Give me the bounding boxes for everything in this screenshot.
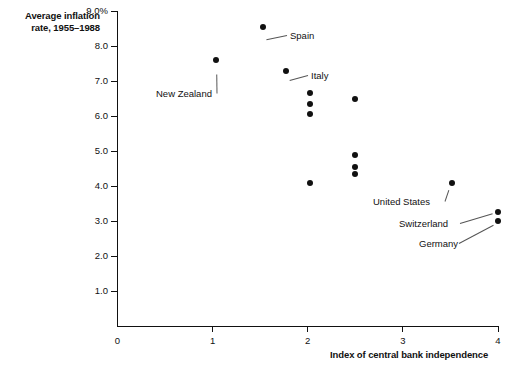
x-axis-title: Index of central bank independence — [330, 349, 488, 360]
point-label: Switzerland — [399, 219, 448, 229]
point-label: United States — [373, 197, 430, 207]
point-label: New Zealand — [156, 89, 212, 99]
point-annotations: SpainNew ZealandItalyUnited StatesSwitze… — [0, 0, 515, 372]
point-label: Spain — [290, 31, 314, 41]
point-label: Germany — [419, 239, 458, 249]
point-label: Italy — [311, 71, 328, 81]
scatter-chart: Average inflation rate, 1955–1988 1.02.0… — [0, 0, 515, 372]
